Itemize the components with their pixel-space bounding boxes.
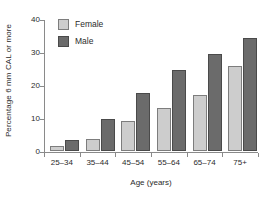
y-tick-label: 40 [31, 16, 40, 24]
chart-legend: Female Male [58, 17, 103, 51]
bar-female-5 [228, 66, 242, 151]
x-tick-mark [187, 153, 188, 157]
bar-chart-figure: Percentage 6 mm CAL or more 010203040 25… [0, 0, 271, 201]
x-axis-tick-labels: 25–3435–4445–5455–6465–7475+ [44, 158, 258, 170]
bar-male-1 [101, 119, 115, 151]
legend-swatch-male-icon [58, 36, 69, 47]
bar-male-5 [243, 38, 257, 151]
x-tick-label: 25–34 [51, 158, 73, 167]
bar-female-3 [157, 108, 171, 151]
y-axis-line [44, 20, 45, 153]
y-axis-tick-labels: 010203040 [18, 14, 42, 158]
legend-label-male: Male [75, 37, 93, 46]
bar-group [226, 19, 256, 151]
x-tick-label: 45–54 [122, 158, 144, 167]
x-tick-mark [222, 153, 223, 157]
bar-group [155, 19, 185, 151]
x-tick-mark [80, 153, 81, 157]
bar-group [119, 19, 149, 151]
y-axis-title: Percentage 6 mm CAL or more [0, 0, 18, 160]
y-tick-label: 30 [31, 49, 40, 57]
x-tick-label: 55–64 [158, 158, 180, 167]
bar-group [191, 19, 221, 151]
x-axis-title: Age (years) [44, 178, 258, 187]
x-tick-mark [151, 153, 152, 157]
y-axis-title-text: Percentage 6 mm CAL or more [5, 23, 14, 136]
bar-female-1 [86, 139, 100, 151]
bar-female-0 [50, 146, 64, 151]
bar-male-3 [172, 70, 186, 151]
x-tick-label: 65–74 [193, 158, 215, 167]
legend-item-female: Female [58, 17, 103, 31]
x-tick-mark [115, 153, 116, 157]
bar-male-2 [136, 93, 150, 151]
bar-male-0 [65, 140, 79, 151]
bar-female-4 [193, 95, 207, 151]
bar-male-4 [208, 54, 222, 151]
legend-label-female: Female [75, 20, 103, 29]
y-tick-mark [40, 119, 44, 120]
y-tick-mark [40, 86, 44, 87]
y-tick-label: 10 [31, 115, 40, 123]
y-tick-label: 20 [31, 82, 40, 90]
legend-swatch-female-icon [58, 19, 69, 30]
x-tick-mark [258, 153, 259, 157]
x-tick-mark [44, 153, 45, 157]
y-tick-mark [40, 20, 44, 21]
x-tick-label: 35–44 [86, 158, 108, 167]
bar-female-2 [121, 121, 135, 151]
y-tick-mark [40, 53, 44, 54]
x-tick-label: 75+ [233, 158, 247, 167]
legend-item-male: Male [58, 34, 103, 48]
